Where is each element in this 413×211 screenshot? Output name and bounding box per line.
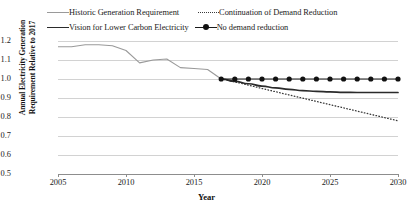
data-point-marker — [232, 76, 237, 81]
x-axis-title: Year — [0, 192, 413, 202]
x-tickmark — [330, 174, 331, 177]
legend-swatch-dotted-icon — [197, 7, 219, 17]
data-point-marker — [395, 76, 400, 81]
x-tick-label: 2030 — [378, 178, 413, 187]
y-tick-label: 0.9 — [0, 94, 11, 102]
legend-label-historic: Historic Generation Requirement — [69, 6, 179, 19]
x-tick-label: 2005 — [38, 178, 78, 187]
data-point-marker — [368, 76, 373, 81]
x-tickmark — [58, 174, 59, 177]
y-tick-label: 0.7 — [0, 132, 11, 140]
legend-label-continuation: Continuation of Demand Reduction — [219, 6, 337, 19]
series-line-historic — [58, 45, 221, 79]
data-point-marker — [246, 76, 251, 81]
data-point-marker — [327, 76, 332, 81]
legend-label-vision: Vision for Lower Carbon Electricity — [69, 21, 189, 34]
data-point-marker — [300, 76, 305, 81]
y-tick-label: 0.8 — [0, 113, 11, 121]
data-point-marker — [273, 76, 278, 81]
x-tick-label: 2015 — [174, 178, 214, 187]
data-point-marker — [219, 76, 224, 81]
x-tick-label: 2010 — [106, 178, 146, 187]
x-tickmark — [126, 174, 127, 177]
x-tick-label: 2020 — [242, 178, 282, 187]
legend-entry-continuation: Continuation of Demand Reduction — [197, 4, 337, 17]
legend-swatch-line-icon — [47, 7, 69, 17]
y-tick-label: 0.6 — [0, 151, 11, 159]
legend-entry-no-reduction: No demand reduction — [195, 19, 289, 32]
data-point-marker — [382, 76, 387, 81]
legend-row-2: Vision for Lower Carbon Electricity No d… — [47, 19, 288, 32]
y-axis-title: Annual Electricity Generation Requiremen… — [18, 0, 37, 143]
x-tickmark — [262, 174, 263, 177]
legend-swatch-thick-line-icon — [47, 22, 69, 32]
y-tick-label: 1.0 — [0, 75, 11, 83]
x-tickmark — [194, 174, 195, 177]
plot-area — [58, 41, 398, 174]
data-point-marker — [355, 76, 360, 81]
y-axis-title-line1: Annual Electricity Generation — [18, 20, 27, 115]
y-tick-label: 0.5 — [0, 170, 11, 178]
chart-page: Historic Generation Requirement Continua… — [0, 0, 413, 211]
series-line-continuation — [221, 79, 398, 121]
legend-swatch-marker-line-icon — [195, 22, 217, 32]
legend-row-1: Historic Generation Requirement Continua… — [47, 4, 337, 17]
x-axis-line — [58, 174, 398, 175]
y-tick-label: 1.1 — [0, 56, 11, 64]
chart-legend: Historic Generation Requirement Continua… — [0, 4, 413, 34]
x-tick-label: 2025 — [310, 178, 350, 187]
data-point-marker — [287, 76, 292, 81]
legend-entry-vision: Vision for Lower Carbon Electricity — [47, 19, 189, 32]
y-tick-label: 1.2 — [0, 37, 11, 45]
legend-label-no-reduction: No demand reduction — [217, 21, 289, 34]
data-point-marker — [314, 76, 319, 81]
series-layer — [58, 41, 398, 174]
data-point-marker — [341, 76, 346, 81]
data-point-marker — [259, 76, 264, 81]
x-tickmark — [398, 174, 399, 177]
legend-entry-historic: Historic Generation Requirement — [47, 4, 179, 17]
y-axis-title-line2: Requirement Relative to 2017 — [27, 21, 36, 114]
